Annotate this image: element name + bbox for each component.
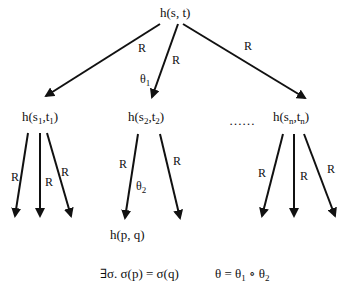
formula-theta-composition: θ = θ1 ∘ θ2 [215, 266, 269, 283]
edge-child-2-b [160, 134, 180, 218]
child-node-2: h(s2,t2) [128, 109, 164, 126]
edge-child-2-to-leaf [125, 134, 138, 218]
edge-label-r: R [173, 154, 181, 168]
edge-label-r: R [45, 175, 53, 189]
root-node: h(s, t) [160, 5, 190, 20]
edge-label-r: R [172, 53, 180, 67]
child-node-n: h(sn,tn) [273, 109, 309, 126]
edge-label-r: R [258, 166, 266, 180]
edge-label-r: R [119, 157, 127, 171]
edge-label-r: R [244, 39, 252, 53]
child-node-1: h(s1,t1) [22, 109, 58, 126]
theta2-label: θ2 [136, 179, 146, 195]
edge-label-r: R [138, 41, 146, 55]
leaf-node: h(p, q) [110, 227, 145, 242]
edge-label-r: R [327, 162, 335, 176]
theta1-label: θ1 [140, 72, 150, 88]
edge-label-r: R [11, 170, 19, 184]
edge-label-r: R [300, 169, 308, 183]
ellipsis: …… [229, 113, 255, 128]
edge-label-r: R [61, 165, 69, 179]
formula-unifier: ∃σ. σ(p) = σ(q) [100, 266, 179, 281]
tree-diagram: h(s, t) R R R θ1 h(s1,t1) h(s2,t2) …… h(… [0, 0, 349, 287]
edge-root-to-child-n [183, 24, 305, 98]
